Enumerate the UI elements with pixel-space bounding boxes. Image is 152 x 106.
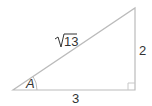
angle-label: A <box>25 76 35 91</box>
triangle-diagram: A 13 2 3 <box>0 0 152 106</box>
vertical-side-label: 2 <box>139 43 146 58</box>
hypotenuse-radicand: 13 <box>64 34 78 49</box>
horizontal-side-label: 3 <box>72 91 79 106</box>
hypotenuse-label: 13 <box>55 34 78 49</box>
right-angle-marker <box>128 83 135 90</box>
